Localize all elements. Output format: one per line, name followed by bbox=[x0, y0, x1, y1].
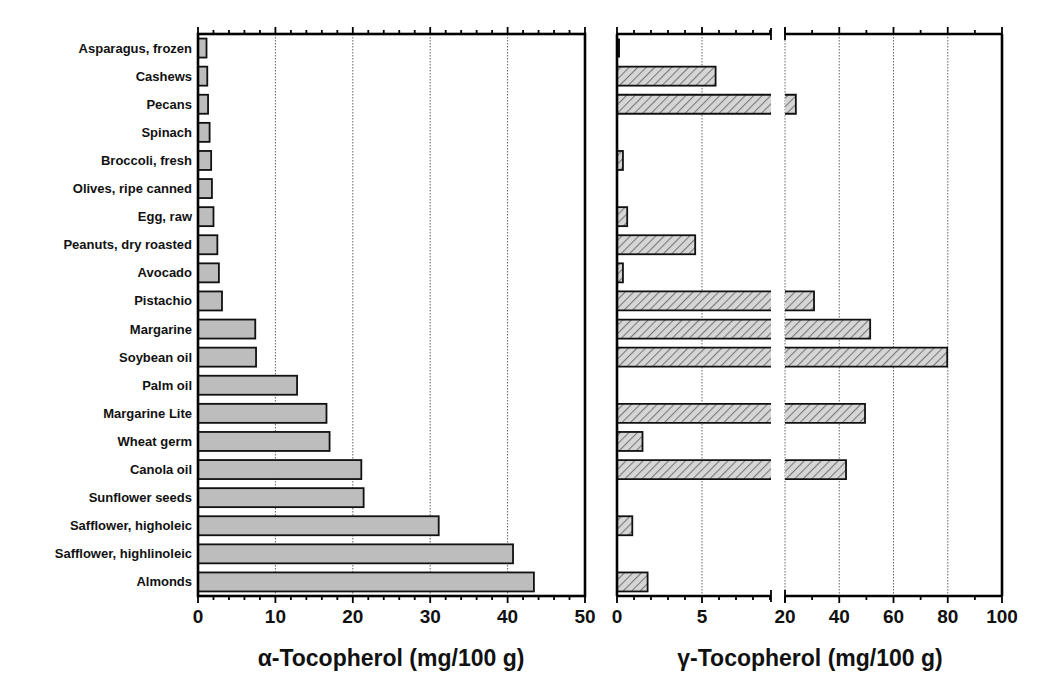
gamma-tick-label: 40 bbox=[829, 606, 850, 627]
category-label: Safflower, highlinoleic bbox=[55, 546, 192, 561]
category-label: Spinach bbox=[141, 125, 192, 140]
alpha-bar bbox=[198, 207, 213, 226]
alpha-bar bbox=[198, 516, 439, 535]
gamma-bar bbox=[617, 235, 695, 254]
alpha-bar bbox=[198, 404, 326, 423]
category-label: Canola oil bbox=[130, 462, 192, 477]
alpha-bar bbox=[198, 348, 256, 367]
gamma-tick-label: 0 bbox=[612, 606, 623, 627]
gamma-bar bbox=[617, 516, 632, 535]
category-label: Palm oil bbox=[142, 378, 192, 393]
category-label: Avocado bbox=[138, 265, 192, 280]
gamma-bar-seg2 bbox=[785, 460, 846, 479]
gamma-bar bbox=[617, 432, 643, 451]
alpha-tick-label: 30 bbox=[420, 606, 441, 627]
gamma-bar-seg1 bbox=[617, 460, 771, 479]
gamma-bar-seg1 bbox=[617, 320, 771, 339]
alpha-bar bbox=[198, 488, 364, 507]
gamma-bar-seg2 bbox=[785, 320, 870, 339]
gamma-bar-seg1 bbox=[617, 348, 771, 367]
alpha-bar bbox=[198, 263, 219, 282]
alpha-bar bbox=[198, 151, 211, 170]
alpha-tick-label: 50 bbox=[574, 606, 595, 627]
alpha-bar bbox=[198, 544, 513, 563]
category-label: Safflower, higholeic bbox=[70, 518, 192, 533]
alpha-tick-label: 20 bbox=[342, 606, 363, 627]
alpha-bar bbox=[198, 432, 330, 451]
category-label: Soybean oil bbox=[119, 350, 192, 365]
category-label: Olives, ripe canned bbox=[73, 181, 192, 196]
alpha-bar bbox=[198, 95, 208, 114]
category-label: Pistachio bbox=[134, 293, 192, 308]
gamma-bar-seg2 bbox=[785, 95, 796, 114]
category-label: Broccoli, fresh bbox=[101, 153, 192, 168]
alpha-bar bbox=[198, 67, 207, 86]
gamma-tick-label: 100 bbox=[986, 606, 1018, 627]
gamma-bars bbox=[617, 39, 947, 592]
tick-labels: 010203040500520406080100 bbox=[193, 606, 1018, 627]
gamma-bar-seg2 bbox=[785, 291, 814, 310]
gamma-bar bbox=[617, 572, 648, 591]
alpha-bar bbox=[198, 179, 212, 198]
alpha-bar bbox=[198, 376, 297, 395]
alpha-bar bbox=[198, 320, 255, 339]
category-label: Wheat germ bbox=[118, 434, 192, 449]
alpha-axis-title: α-Tocopherol (mg/100 g) bbox=[258, 645, 525, 671]
alpha-frame bbox=[198, 34, 585, 596]
alpha-bar bbox=[198, 123, 210, 142]
category-label: Peanuts, dry roasted bbox=[63, 237, 192, 252]
gamma-bar-seg1 bbox=[617, 95, 771, 114]
category-label: Asparagus, frozen bbox=[79, 41, 192, 56]
alpha-bar bbox=[198, 572, 534, 591]
gamma-axis-title: γ-Tocopherol (mg/100 g) bbox=[677, 645, 942, 671]
tocopherol-chart: Asparagus, frozenCashewsPecansSpinachBro… bbox=[0, 0, 1043, 691]
category-labels: Asparagus, frozenCashewsPecansSpinachBro… bbox=[55, 41, 193, 590]
gamma-tick-label: 20 bbox=[774, 606, 795, 627]
gamma-tick-label: 5 bbox=[697, 606, 708, 627]
gamma-tick-label: 60 bbox=[883, 606, 904, 627]
gamma-bar-seg1 bbox=[617, 291, 771, 310]
gamma-tick-label: 80 bbox=[937, 606, 958, 627]
category-label: Cashews bbox=[136, 69, 192, 84]
gridlines bbox=[275, 34, 947, 596]
gamma-bar bbox=[617, 67, 716, 86]
alpha-bars bbox=[198, 39, 534, 592]
alpha-bar bbox=[198, 235, 217, 254]
category-label: Egg, raw bbox=[138, 209, 193, 224]
category-label: Margarine bbox=[130, 322, 192, 337]
category-label: Margarine Lite bbox=[103, 406, 192, 421]
gamma-bar-seg1 bbox=[617, 404, 771, 423]
category-label: Pecans bbox=[146, 97, 192, 112]
alpha-bar bbox=[198, 460, 361, 479]
alpha-tick-label: 40 bbox=[497, 606, 518, 627]
category-label: Almonds bbox=[136, 574, 192, 589]
gamma-bar-seg2 bbox=[785, 348, 947, 367]
gamma-bar-seg2 bbox=[785, 404, 865, 423]
gamma-bar bbox=[617, 207, 627, 226]
alpha-bar bbox=[198, 291, 222, 310]
alpha-tick-label: 10 bbox=[265, 606, 286, 627]
alpha-tick-label: 0 bbox=[193, 606, 204, 627]
category-label: Sunflower seeds bbox=[89, 490, 192, 505]
